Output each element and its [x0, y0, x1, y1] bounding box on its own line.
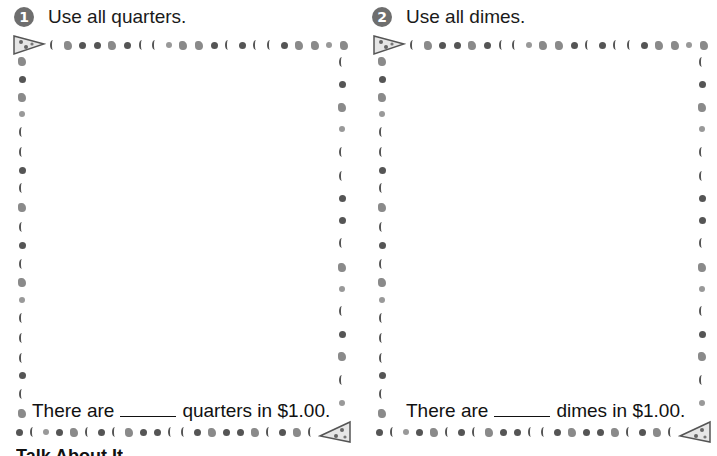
sentence-end: quarters in $1.00. — [182, 400, 330, 421]
problem-instruction: Use all quarters. — [48, 6, 186, 28]
answer-blank[interactable] — [120, 415, 176, 417]
topping-border-bottom — [12, 424, 352, 440]
topping-border-top — [372, 37, 712, 53]
problem-instruction: Use all dimes. — [406, 6, 525, 28]
sentence-end: dimes in $1.00. — [556, 400, 685, 421]
answer-blank[interactable] — [494, 415, 550, 417]
topping-border-right — [696, 57, 708, 406]
topping-border-bottom — [372, 424, 712, 440]
topping-border-right — [336, 57, 348, 406]
problem-1-work-area[interactable]: There arequarters in $1.00. — [12, 37, 352, 440]
fill-in-sentence: There aredimes in $1.00. — [406, 400, 685, 422]
problem-number-badge: 1 — [14, 7, 34, 27]
topping-border-left — [376, 57, 388, 418]
problem-2-header: 2 Use all dimes. — [372, 4, 525, 30]
sentence-start: There are — [32, 400, 114, 421]
topping-border-top — [12, 37, 352, 53]
sentence-start: There are — [406, 400, 488, 421]
fill-in-sentence: There arequarters in $1.00. — [32, 400, 330, 422]
pizza-slice-icon — [678, 420, 712, 444]
topping-border-left — [16, 57, 28, 418]
pizza-slice-icon — [318, 420, 352, 444]
problem-2-work-area[interactable]: There aredimes in $1.00. — [372, 37, 712, 440]
talk-about-it-heading: Talk About It — [16, 446, 123, 456]
problem-1-header: 1 Use all quarters. — [14, 4, 186, 30]
problem-number-badge: 2 — [372, 7, 392, 27]
